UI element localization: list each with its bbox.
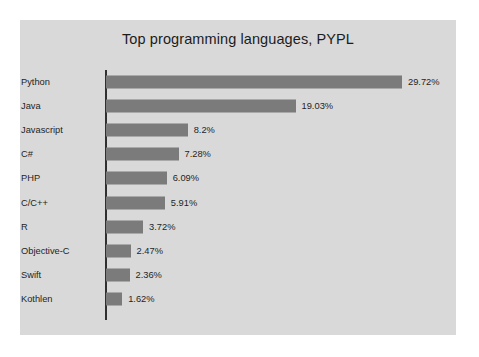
bar-fill [106,268,130,281]
bar-fill [106,148,179,161]
chart-title: Top programming languages, PYPL [20,31,456,47]
bar-fill [106,124,188,137]
bar-row: C#7.28% [20,142,456,166]
bar-track: 8.2% [106,124,215,137]
bar-track: 3.72% [106,220,175,233]
bar-row: Python29.72% [20,70,456,94]
chart-figure: Top programming languages, PYPL Python29… [0,0,479,357]
bar-category-label: Kothlen [21,294,101,304]
bar-track: 1.62% [106,292,155,305]
bar-category-label: PHP [21,173,101,183]
bar-value-label: 3.72% [149,220,175,233]
bar-row: Java19.03% [20,94,456,118]
plot-area: Python29.72%Java19.03%Javascript8.2%C#7.… [20,68,456,330]
bar-value-label: 1.62% [128,292,154,305]
bar-category-label: Javascript [21,125,101,135]
bar-value-label: 8.2% [194,124,215,137]
bar-category-label: Swift [21,270,101,280]
bar-value-label: 29.72% [408,76,440,89]
bar-category-label: Java [21,101,101,111]
bar-track: 5.91% [106,196,197,209]
bar-track: 6.09% [106,172,199,185]
bar-fill [106,244,131,257]
bar-row: R3.72% [20,215,456,239]
bar-value-label: 19.03% [302,100,334,113]
bar-row: PHP6.09% [20,166,456,190]
chart-panel: Top programming languages, PYPL Python29… [20,20,456,335]
bar-track: 7.28% [106,148,211,161]
bar-value-label: 7.28% [185,148,211,161]
bar-fill [106,220,143,233]
bar-track: 19.03% [106,100,333,113]
bar-category-label: C# [21,149,101,159]
bar-category-label: Objective-C [21,246,101,256]
bar-fill [106,196,165,209]
bar-track: 2.36% [106,268,162,281]
bar-row: Javascript8.2% [20,118,456,142]
bar-row: Swift2.36% [20,263,456,287]
bar-fill [106,292,122,305]
bar-category-label: Python [21,77,101,87]
bar-category-label: C/C++ [21,198,101,208]
bar-row: Kothlen1.62% [20,287,456,311]
bar-fill [106,172,167,185]
bar-fill [106,76,402,89]
bar-value-label: 2.36% [136,268,162,281]
bar-value-label: 2.47% [137,244,163,257]
bar-value-label: 5.91% [171,196,197,209]
bar-track: 2.47% [106,244,163,257]
bar-row: C/C++5.91% [20,191,456,215]
bar-category-label: R [21,222,101,232]
bar-track: 29.72% [106,76,440,89]
bar-fill [106,100,296,113]
bar-row: Objective-C2.47% [20,239,456,263]
bar-value-label: 6.09% [173,172,199,185]
